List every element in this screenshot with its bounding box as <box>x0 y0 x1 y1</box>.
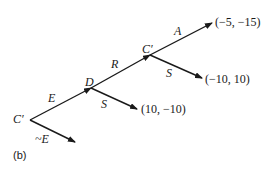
edge-c2-s-label: S <box>166 67 172 79</box>
payoff-c2-a: (−5, −15) <box>215 16 261 28</box>
node-c2-label: C′ <box>142 43 153 55</box>
edge-not-e-label: ~E <box>35 133 49 145</box>
edge-a-label: A <box>174 25 181 37</box>
payoff-d-s: (10, −10) <box>141 103 186 115</box>
edge-r <box>91 55 150 88</box>
edge-e-label: E <box>48 92 55 104</box>
edge-r-label: R <box>111 58 118 70</box>
edge-d-s <box>91 88 137 109</box>
payoff-c2-s: (−10, 10) <box>205 73 250 85</box>
edge-e <box>30 88 91 120</box>
edge-d-s-label: S <box>101 98 107 110</box>
node-d-label: D <box>85 76 94 88</box>
figure-caption: (b) <box>13 150 26 161</box>
node-root-label: C′ <box>13 113 24 125</box>
edge-c2-s <box>150 55 202 78</box>
